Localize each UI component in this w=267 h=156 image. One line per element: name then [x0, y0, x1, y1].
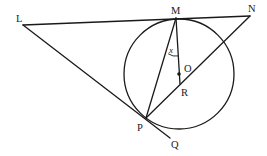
tangent-line-LQ [23, 25, 170, 138]
label-R: R [181, 87, 188, 98]
geometry-diagram: L M N O R P Q x [0, 0, 267, 156]
label-L: L [16, 13, 22, 24]
label-M: M [171, 5, 181, 16]
center-point-O [177, 72, 181, 76]
label-N: N [248, 3, 256, 14]
label-Q: Q [171, 139, 179, 150]
label-angle-x: x [168, 45, 173, 55]
label-O: O [184, 63, 192, 74]
label-P: P [137, 122, 143, 133]
tangent-line-LN [23, 16, 250, 25]
